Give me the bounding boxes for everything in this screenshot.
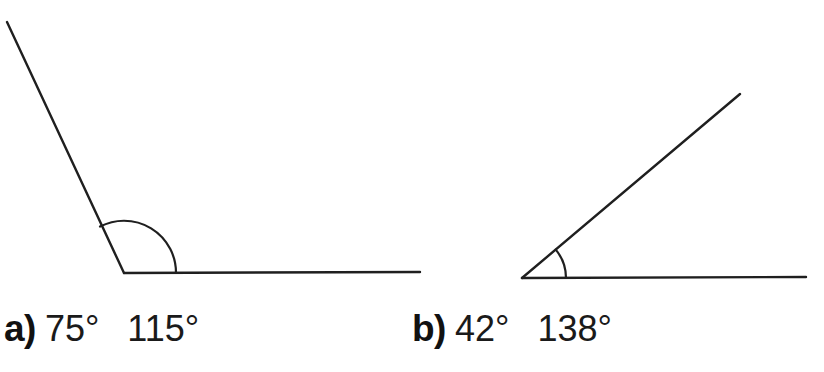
item-marker-a: a) [4, 308, 36, 350]
answers-row: a) 75° 115° b) 42° 138° [0, 308, 824, 372]
figure-b [522, 94, 806, 278]
figure-a-ray-upper [7, 22, 124, 273]
answer-b-obtuse-angle: 138° [537, 308, 611, 350]
answer-a-obtuse-angle: 115° [127, 308, 199, 350]
answer-b-acute-angle: 42° [455, 308, 509, 350]
figure-a-ray-horizontal [124, 272, 420, 273]
figure-b-ray-horizontal [522, 277, 806, 278]
answer-a-acute-angle: 75° [45, 308, 99, 350]
answer-group-b: b) 42° 138° [412, 308, 612, 350]
worksheet-page: a) 75° 115° b) 42° 138° [0, 0, 824, 372]
figure-a [7, 22, 420, 273]
figure-b-angle-arc [556, 250, 566, 278]
answer-group-a: a) 75° 115° [4, 308, 199, 350]
figure-b-ray-upper [522, 94, 740, 278]
item-marker-b: b) [412, 308, 446, 350]
